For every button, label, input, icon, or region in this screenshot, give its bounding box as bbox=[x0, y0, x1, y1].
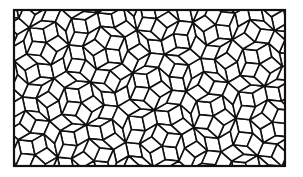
rhombus-tile bbox=[284, 10, 301, 25]
rhombus-tile bbox=[299, 34, 303, 55]
rhombus-tile bbox=[291, 68, 303, 90]
rhombus-tile bbox=[0, 103, 10, 117]
rhombus-tile bbox=[2, 0, 22, 5]
rhombus-tile bbox=[222, 0, 237, 4]
rhombus-tile bbox=[55, 171, 75, 177]
rhombus-tile bbox=[243, 176, 259, 177]
rhombus-tile bbox=[0, 46, 15, 61]
rhombus-tile bbox=[0, 72, 12, 87]
rhombus-tile bbox=[111, 169, 134, 177]
rhombus-tile bbox=[166, 0, 182, 7]
rhombus-tile bbox=[22, 0, 37, 5]
rhombus-tile bbox=[286, 111, 295, 137]
rhombus-tile bbox=[140, 0, 166, 5]
rhombus-tile bbox=[110, 0, 130, 7]
rhombus-tile bbox=[289, 124, 303, 146]
rhombus-tile bbox=[196, 0, 211, 9]
rhombus-tile bbox=[0, 163, 3, 174]
rhombus-tile bbox=[69, 172, 85, 177]
rhombus-tile bbox=[93, 176, 111, 177]
rhombus-tile bbox=[298, 0, 303, 25]
rhombus-tile bbox=[300, 126, 303, 146]
rhombus-tile bbox=[244, 0, 253, 6]
rhombus-tile bbox=[301, 77, 303, 103]
rhombus-tile bbox=[34, 0, 47, 8]
rhombus-tile bbox=[295, 117, 303, 133]
rhombus-tile bbox=[0, 93, 10, 104]
rhombus-tile bbox=[296, 61, 303, 77]
rhombus-tile bbox=[58, 0, 73, 9]
rhombus-tile bbox=[0, 0, 2, 10]
rhombus-tile bbox=[85, 174, 111, 177]
rhombus-tile bbox=[0, 50, 1, 66]
rhombus-tile bbox=[261, 0, 279, 7]
rhombus-tile bbox=[248, 169, 271, 177]
rhombus-tile bbox=[300, 146, 303, 161]
penrose-tiling-diagram bbox=[0, 0, 303, 177]
rhombus-tile bbox=[292, 104, 303, 125]
rhombus-tile bbox=[0, 86, 12, 94]
rhombus-tile bbox=[208, 0, 225, 4]
rhombus-tiles bbox=[0, 0, 303, 177]
rhombus-tile bbox=[147, 167, 163, 177]
rhombus-tile bbox=[297, 173, 303, 177]
rhombus-tile bbox=[0, 37, 12, 48]
rhombus-tile bbox=[44, 0, 61, 9]
rhombus-tile bbox=[70, 0, 79, 2]
rhombus-tile bbox=[273, 0, 289, 10]
rhombus-tile bbox=[0, 115, 8, 130]
rhombus-tile bbox=[284, 0, 303, 11]
rhombus-tile bbox=[3, 166, 18, 177]
rhombus-tile bbox=[291, 81, 303, 104]
rhombus-tile bbox=[297, 160, 303, 174]
rhombus-tile bbox=[158, 176, 178, 177]
rhombus-tile bbox=[293, 41, 302, 67]
rhombus-tile bbox=[234, 0, 247, 6]
rhombus-tile bbox=[296, 48, 303, 68]
rhombus-tile bbox=[0, 173, 6, 177]
rhombus-tile bbox=[0, 24, 7, 38]
rhombus-tile bbox=[129, 0, 152, 4]
rhombus-tile bbox=[300, 12, 303, 34]
rhombus-tile bbox=[0, 142, 2, 150]
rhombus-tile bbox=[288, 25, 303, 41]
rhombus-tile bbox=[0, 143, 5, 164]
rhombus-tile bbox=[300, 139, 303, 147]
rhombus-tile bbox=[294, 146, 303, 172]
rhombus-tile bbox=[105, 176, 121, 177]
rhombus-tile bbox=[176, 0, 196, 9]
rhombus-tile bbox=[0, 3, 5, 24]
rhombus-tile bbox=[0, 60, 1, 80]
rhombus-tile bbox=[5, 104, 14, 130]
rhombus-tile bbox=[26, 176, 43, 177]
rhombus-tile bbox=[15, 166, 28, 177]
rhombus-tile bbox=[0, 60, 15, 74]
rhombus-tile bbox=[0, 0, 8, 3]
rhombus-tile bbox=[73, 0, 93, 3]
rhombus-tile bbox=[153, 167, 177, 177]
rhombus-tile bbox=[0, 129, 8, 143]
rhombus-tile bbox=[229, 175, 249, 177]
rhombus-tile bbox=[15, 166, 39, 177]
rhombus-tile bbox=[40, 170, 55, 177]
rhombus-tile bbox=[0, 37, 1, 60]
rhombus-tile bbox=[189, 170, 206, 177]
rhombus-tile bbox=[285, 173, 303, 177]
rhombus-tile bbox=[0, 172, 3, 177]
rhombus-tile bbox=[177, 170, 192, 177]
rhombus-tile bbox=[247, 0, 267, 7]
